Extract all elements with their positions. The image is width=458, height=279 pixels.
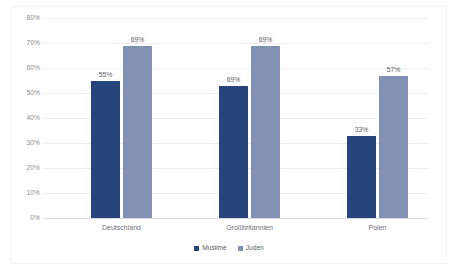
bar-value-label: 69% xyxy=(259,37,273,44)
bar-juden-grossbritannien[interactable]: 69% xyxy=(251,46,280,219)
bar-group-grossbritannien: 69% 69% xyxy=(219,18,280,218)
y-tick-label: 40% xyxy=(6,115,40,122)
bar-muslime-polen[interactable]: 33% xyxy=(347,136,376,219)
bar-value-label: 69% xyxy=(131,37,145,44)
y-tick-label: 30% xyxy=(6,140,40,147)
bar-juden-deutschland[interactable]: 69% xyxy=(123,46,152,219)
chart-legend: Muslime Juden xyxy=(0,245,458,252)
y-axis: 0% 10% 20% 30% 40% 50% 60% 70% 80% xyxy=(0,18,40,218)
y-tick-label: 20% xyxy=(6,165,40,172)
gridline-0 xyxy=(43,218,428,219)
legend-label: Muslime xyxy=(202,245,227,252)
bar-value-label: 55% xyxy=(99,72,113,79)
bar-juden-polen[interactable]: 57% xyxy=(379,76,408,219)
plot-area: 55% 69% 69% 69% 33% 57% xyxy=(43,18,428,218)
bar-value-label: 33% xyxy=(355,127,369,134)
legend-item-juden[interactable]: Juden xyxy=(238,245,264,252)
bar-value-label: 57% xyxy=(387,67,401,74)
bar-muslime-deutschland[interactable]: 55% xyxy=(91,81,120,219)
bar-group-polen: 33% 57% xyxy=(347,18,408,218)
legend-item-muslime[interactable]: Muslime xyxy=(194,245,227,252)
legend-swatch-icon xyxy=(194,246,199,251)
legend-label: Juden xyxy=(246,245,264,252)
x-tick-label-grossbritannien: Großbritannien xyxy=(219,224,280,231)
x-axis: Deutschland Großbritannien Polen xyxy=(43,224,428,236)
y-tick-label: 80% xyxy=(6,15,40,22)
y-tick-label: 70% xyxy=(6,40,40,47)
y-tick-label: 60% xyxy=(6,65,40,72)
y-tick-label: 10% xyxy=(6,190,40,197)
x-tick-label-deutschland: Deutschland xyxy=(91,224,152,231)
bar-group-deutschland: 55% 69% xyxy=(91,18,152,218)
bar-value-label: 69% xyxy=(227,77,241,84)
legend-swatch-icon xyxy=(238,246,243,251)
y-tick-label: 50% xyxy=(6,90,40,97)
bar-muslime-grossbritannien[interactable]: 69% xyxy=(219,86,248,219)
x-tick-label-polen: Polen xyxy=(347,224,408,231)
y-tick-label: 0% xyxy=(6,215,40,222)
bar-chart: 0% 10% 20% 30% 40% 50% 60% 70% 80% 55% 6… xyxy=(0,0,458,279)
